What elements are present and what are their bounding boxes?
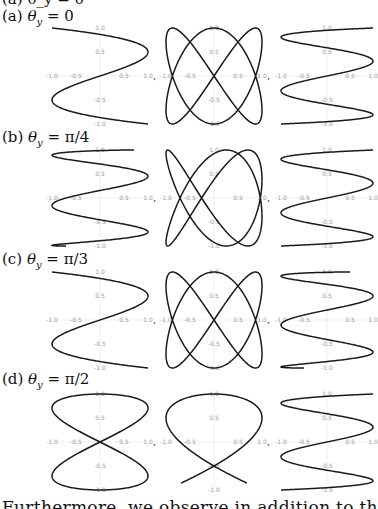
x-tick-label: 0.5 — [233, 438, 243, 445]
x-tick-label: -1.0 — [275, 316, 287, 323]
x-tick-label: -1.0 — [46, 316, 58, 323]
plot-panel-b2: -1.0-0.50.51.01.00.5-0.5-1.0 — [160, 146, 267, 249]
x-tick-label: -0.5 — [184, 316, 196, 323]
y-tick-label: -1.0 — [321, 364, 333, 371]
x-tick-label: 0.5 — [345, 316, 355, 323]
x-tick-label: 0.5 — [233, 316, 243, 323]
separator-comma: , — [153, 70, 156, 81]
y-tick-label: -0.5 — [94, 96, 106, 103]
x-tick-label: -0.5 — [298, 316, 310, 323]
x-tick-label: 1.0 — [143, 316, 153, 323]
x-tick-label: -1.0 — [160, 194, 172, 201]
x-tick-label: -1.0 — [160, 72, 172, 79]
x-tick-label: -1.0 — [275, 194, 287, 201]
x-tick-label: -1.0 — [46, 72, 58, 79]
x-tick-label: 0.5 — [119, 438, 129, 445]
y-tick-label: -0.5 — [321, 218, 333, 225]
plot-panel-b1: -1.0-0.50.51.01.00.5-0.5-1.0 — [46, 146, 153, 249]
y-tick-label: -0.5 — [208, 340, 220, 347]
separator-comma: , — [153, 436, 156, 447]
x-tick-label: -0.5 — [298, 72, 310, 79]
x-tick-label: 1.0 — [368, 194, 378, 201]
y-tick-label: 0.5 — [95, 292, 105, 299]
y-tick-label: -0.5 — [321, 96, 333, 103]
y-tick-label: -0.5 — [208, 96, 220, 103]
x-tick-label: 0.5 — [119, 316, 129, 323]
x-tick-label: 0.5 — [345, 194, 355, 201]
x-tick-label: 0.5 — [233, 72, 243, 79]
x-tick-label: -0.5 — [70, 438, 82, 445]
separator-comma: , — [267, 314, 270, 325]
body-text: Furthermore, we observe in addition to t… — [2, 497, 378, 509]
plot-panel-c1: -1.0-0.50.51.01.00.5-0.5-1.0 — [46, 268, 153, 371]
figure-plots: -1.0-0.50.51.01.00.5-0.5-1.0,-1.0-0.50.5… — [0, 0, 378, 509]
y-tick-label: 0.5 — [209, 48, 219, 55]
plot-panel-b3: -1.0-0.50.51.01.00.5-0.5-1.0 — [275, 146, 378, 249]
x-tick-label: 0.5 — [345, 72, 355, 79]
y-tick-label: -1.0 — [94, 242, 106, 249]
y-tick-label: -1.0 — [94, 120, 106, 127]
plot-panel-d3: -1.0-0.50.51.01.00.5-0.5-1.0 — [275, 390, 378, 493]
y-tick-label: 0.5 — [322, 292, 332, 299]
y-tick-label: -1.0 — [208, 486, 220, 493]
x-tick-label: 1.0 — [143, 194, 153, 201]
y-tick-label: 0.5 — [95, 170, 105, 177]
separator-comma: , — [267, 436, 270, 447]
plot-panel-a3: -1.0-0.50.51.01.00.5-0.5-1.0 — [275, 24, 378, 127]
plot-panel-c2: -1.0-0.50.51.01.00.5-0.5-1.0 — [160, 268, 267, 371]
x-tick-label: 0.5 — [233, 194, 243, 201]
separator-comma: , — [153, 314, 156, 325]
x-tick-label: -0.5 — [298, 438, 310, 445]
x-tick-label: 0.5 — [345, 438, 355, 445]
separator-comma: , — [267, 70, 270, 81]
y-tick-label: -1.0 — [94, 364, 106, 371]
y-tick-label: -0.5 — [94, 340, 106, 347]
x-tick-label: -1.0 — [46, 438, 58, 445]
x-tick-label: 1.0 — [143, 72, 153, 79]
x-tick-label: -1.0 — [46, 194, 58, 201]
plot-panel-d1: -1.0-0.50.51.01.00.5-0.5-1.0 — [46, 390, 153, 493]
separator-comma: , — [267, 192, 270, 203]
x-tick-label: 1.0 — [257, 194, 267, 201]
plot-panel-a2: -1.0-0.50.51.01.00.5-0.5-1.0 — [160, 24, 267, 127]
x-tick-label: 1.0 — [257, 72, 267, 79]
y-tick-label: 1.0 — [95, 24, 105, 31]
x-tick-label: -0.5 — [184, 438, 196, 445]
x-tick-label: 1.0 — [257, 438, 267, 445]
y-tick-label: 0.5 — [95, 48, 105, 55]
y-tick-label: 1.0 — [95, 268, 105, 275]
x-tick-label: -1.0 — [275, 72, 287, 79]
x-tick-label: 1.0 — [368, 72, 378, 79]
y-tick-label: 0.5 — [209, 414, 219, 421]
x-tick-label: 1.0 — [368, 316, 378, 323]
plot-panel-c3: -1.0-0.50.51.01.00.5-0.5-1.0 — [275, 268, 378, 371]
x-tick-label: 0.5 — [119, 194, 129, 201]
x-tick-label: 1.0 — [143, 438, 153, 445]
separator-comma: , — [153, 192, 156, 203]
x-tick-label: -0.5 — [70, 72, 82, 79]
x-tick-label: 1.0 — [368, 438, 378, 445]
x-tick-label: 1.0 — [257, 316, 267, 323]
y-tick-label: -0.5 — [321, 462, 333, 469]
x-tick-label: -1.0 — [160, 438, 172, 445]
plot-panel-a1: -1.0-0.50.51.01.00.5-0.5-1.0 — [46, 24, 153, 127]
y-tick-label: 0.5 — [209, 292, 219, 299]
x-tick-label: -1.0 — [275, 438, 287, 445]
x-tick-label: -0.5 — [184, 72, 196, 79]
x-tick-label: 0.5 — [119, 72, 129, 79]
x-tick-label: -0.5 — [184, 194, 196, 201]
plot-panel-d2: -1.0-0.50.51.01.00.5-0.5-1.0 — [160, 390, 267, 493]
x-tick-label: -0.5 — [298, 194, 310, 201]
y-tick-label: -0.5 — [94, 462, 106, 469]
x-tick-label: -0.5 — [70, 316, 82, 323]
x-tick-label: -1.0 — [160, 316, 172, 323]
y-tick-label: 1.0 — [95, 146, 105, 153]
y-tick-label: 0.5 — [95, 414, 105, 421]
